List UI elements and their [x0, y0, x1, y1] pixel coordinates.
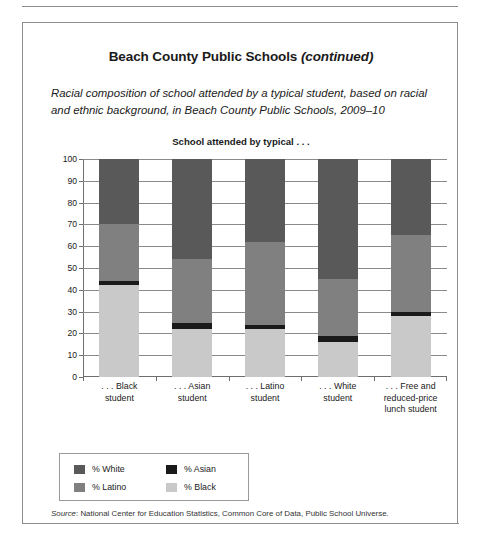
legend-item[interactable]: % Black: [166, 482, 216, 492]
figure-panel: Beach County Public Schools (continued) …: [22, 22, 458, 524]
bar-segment-latino: [391, 235, 431, 311]
legend-label: % Latino: [92, 482, 126, 492]
bars-layer: [83, 159, 447, 377]
chart-title: School attended by typical . . .: [23, 136, 459, 147]
x-axis-labels: . . . Blackstudent. . . Asianstudent. . …: [83, 381, 447, 425]
bottom-divider-rule: [23, 523, 459, 524]
legend-swatch-icon: [166, 483, 177, 492]
bar-segment-black: [245, 329, 285, 377]
y-tick-label: 90: [67, 176, 77, 186]
bar-segment-white: [391, 159, 431, 235]
bar-segment-white: [245, 159, 285, 242]
x-axis-label-line: reduced-price: [367, 393, 455, 405]
bar-segment-asian: [391, 312, 431, 316]
bar-segment-latino: [99, 224, 139, 281]
y-tick-label: 20: [67, 328, 77, 338]
bar-segment-latino: [172, 259, 212, 322]
bar-column: [99, 159, 139, 377]
bar-segment-asian: [99, 281, 139, 285]
legend-label: % White: [92, 464, 125, 474]
chart-plot: 1009080706050403020100: [57, 159, 447, 377]
top-divider-rule: [22, 6, 458, 7]
bar-segment-black: [318, 342, 358, 377]
source-note: Source: National Center for Education St…: [51, 509, 451, 518]
legend-swatch-icon: [74, 483, 85, 492]
bar-segment-black: [172, 329, 212, 377]
y-tick-label: 40: [67, 285, 77, 295]
y-tick-label: 10: [67, 350, 77, 360]
bar-segment-white: [318, 159, 358, 279]
bar-segment-white: [99, 159, 139, 224]
bar-segment-latino: [245, 242, 285, 325]
page-title-main: Beach County Public Schools: [109, 49, 301, 64]
source-label: Source: [51, 509, 76, 518]
bar-segment-asian: [172, 323, 212, 330]
y-tick-label: 30: [67, 307, 77, 317]
y-tick-label: 80: [67, 198, 77, 208]
bar-segment-black: [391, 316, 431, 377]
bar-column: [172, 159, 212, 377]
legend-item[interactable]: % White: [74, 464, 125, 474]
legend-item[interactable]: % Latino: [74, 482, 126, 492]
page-title: Beach County Public Schools (continued): [23, 49, 459, 64]
bar-segment-white: [172, 159, 212, 259]
y-tick-label: 100: [63, 154, 77, 164]
bar-column: [318, 159, 358, 377]
y-tick-label: 70: [67, 219, 77, 229]
bar-segment-latino: [318, 279, 358, 336]
bar-column: [391, 159, 431, 377]
x-axis-label-line: . . . Free and: [367, 381, 455, 393]
bar-segment-black: [99, 285, 139, 377]
legend-label: % Asian: [184, 464, 216, 474]
legend-item[interactable]: % Asian: [166, 464, 216, 474]
legend-label: % Black: [184, 482, 216, 492]
x-axis-label-line: lunch student: [367, 404, 455, 416]
y-tick-label: 60: [67, 241, 77, 251]
bar-column: [245, 159, 285, 377]
x-axis-label: . . . Free andreduced-pricelunch student: [367, 381, 455, 416]
bar-segment-asian: [245, 325, 285, 329]
y-tick-label: 50: [67, 263, 77, 273]
figure-subtitle: Racial composition of school attended by…: [51, 85, 433, 119]
chart-legend: % White% Asian% Latino% Black: [59, 453, 249, 501]
legend-swatch-icon: [166, 465, 177, 474]
page-title-continued: (continued): [301, 49, 373, 64]
source-text: : National Center for Education Statisti…: [76, 509, 389, 518]
bar-segment-asian: [318, 336, 358, 343]
legend-swatch-icon: [74, 465, 85, 474]
